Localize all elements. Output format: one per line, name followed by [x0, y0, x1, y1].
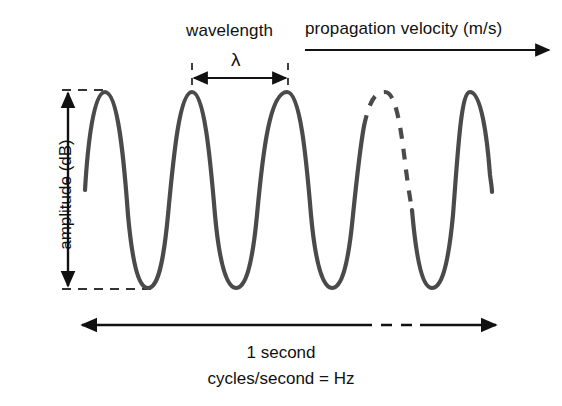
waveform-dashed-peak	[364, 92, 412, 210]
lambda-symbol-label: λ	[231, 50, 241, 69]
propagation-velocity-label: propagation velocity (m/s)	[305, 20, 502, 37]
waveform-solid-right	[412, 92, 492, 288]
wave-diagram-figure: wavelength λ propagation velocity (m/s) …	[0, 0, 562, 406]
one-second-label: 1 second	[0, 344, 562, 361]
waveform-solid-left	[85, 92, 364, 288]
cycles-per-second-label: cycles/second = Hz	[0, 370, 562, 387]
amplitude-axis-label: amplitude (dB)	[57, 100, 74, 290]
wavelength-label: wavelength	[186, 22, 273, 39]
